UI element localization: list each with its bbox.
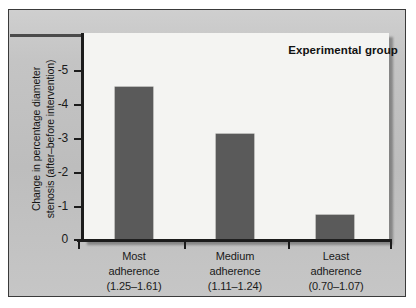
x-category-range-most: (1.25–1.61) <box>79 279 189 294</box>
bar-least-adherence <box>316 215 354 239</box>
x-tick-mark-start <box>78 242 80 249</box>
x-category-label-most: Most adherence (1.25–1.61) <box>79 249 189 294</box>
x-axis-line <box>77 239 392 242</box>
y-axis-title-line2: stenosis (after–before intervention) <box>43 34 57 244</box>
x-category-label-medium: Medium adherence (1.11–1.24) <box>180 249 290 294</box>
x-tick-mark-2 <box>288 242 290 249</box>
x-category-label-least: Least adherence (0.70–1.07) <box>281 249 391 294</box>
bar-medium-adherence <box>216 134 254 239</box>
x-category-line2-medium: adherence <box>180 264 290 279</box>
y-tick-mark-minus4 <box>74 104 82 106</box>
x-tick-mark-1 <box>184 242 186 249</box>
y-tick-mark-zero <box>74 239 82 241</box>
chart-title: Experimental group <box>288 44 398 56</box>
x-category-line2-most: adherence <box>79 264 189 279</box>
y-axis-line <box>81 33 84 241</box>
y-axis-title: Change in percentage diameter stenosis (… <box>29 34 57 244</box>
y-tick-mark-minus2 <box>74 172 82 174</box>
y-tick-mark-minus5 <box>74 70 82 72</box>
y-tick-mark-minus1 <box>74 206 82 208</box>
x-tick-mark-end <box>390 242 392 249</box>
x-category-name-medium: Medium <box>180 249 290 264</box>
x-category-range-medium: (1.11–1.24) <box>180 279 290 294</box>
x-category-range-least: (0.70–1.07) <box>281 279 391 294</box>
bar-most-adherence <box>115 87 153 239</box>
x-category-name-most: Most <box>79 249 189 264</box>
x-category-name-least: Least <box>281 249 391 264</box>
figure-root: Experimental group -5 -4 -3 -2 -1 0 Chan… <box>0 0 416 308</box>
y-tick-mark-minus3 <box>74 138 82 140</box>
y-axis-title-line1: Change in percentage diameter <box>29 34 43 244</box>
x-category-line2-least: adherence <box>281 264 391 279</box>
